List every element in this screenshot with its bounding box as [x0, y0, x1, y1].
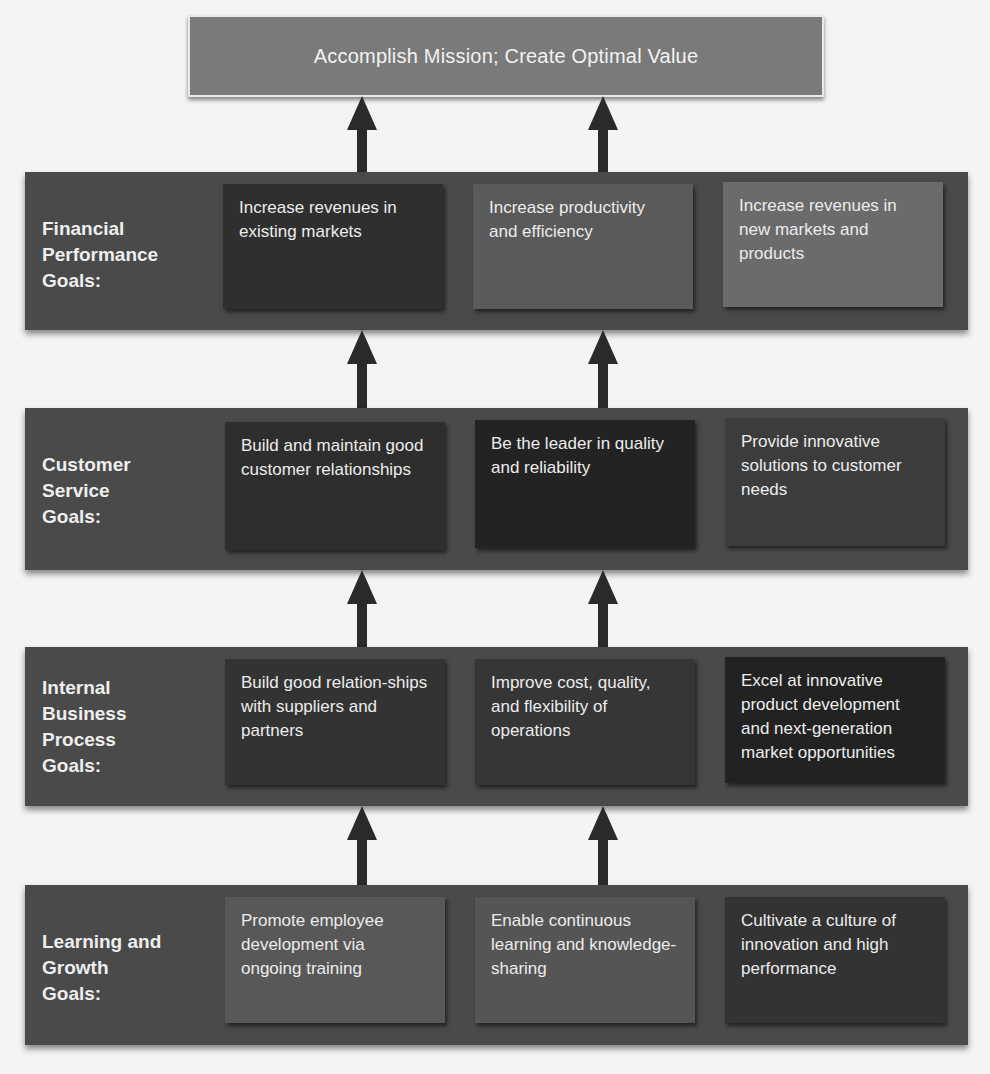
- customer-service-goals-band: Customer Service Goals: Build and mainta…: [25, 408, 968, 570]
- goal-text: Provide innovative solutions to customer…: [741, 432, 902, 499]
- mission-box: Accomplish Mission; Create Optimal Value: [188, 15, 824, 97]
- goal-box: Cultivate a culture of innovation and hi…: [725, 897, 945, 1023]
- label-line: Financial: [42, 216, 158, 242]
- goal-text: Promote employee development via ongoing…: [241, 911, 384, 978]
- arrow-up-icon: [347, 96, 377, 172]
- arrow-up-icon: [347, 570, 377, 647]
- label-line: Service: [42, 478, 131, 504]
- band-label: Learning and Growth Goals:: [42, 929, 161, 1007]
- label-line: Business: [42, 701, 126, 727]
- goal-text: Excel at innovative product development …: [741, 671, 900, 762]
- learning-growth-goals-band: Learning and Growth Goals: Promote emplo…: [25, 885, 968, 1045]
- arrow-up-icon: [588, 330, 618, 408]
- goal-box: Be the leader in quality and reliability: [475, 420, 695, 548]
- goal-box: Increase productivity and efficiency: [473, 184, 693, 309]
- goal-box: Provide innovative solutions to customer…: [725, 418, 945, 546]
- label-line: Process: [42, 727, 126, 753]
- arrow-up-icon: [588, 96, 618, 172]
- goal-text: Increase revenues in existing markets: [239, 198, 397, 241]
- goal-box: Promote employee development via ongoing…: [225, 897, 445, 1023]
- goal-box: Build and maintain good customer relatio…: [225, 422, 445, 550]
- goal-box: Excel at innovative product development …: [725, 657, 945, 783]
- arrow-up-icon: [347, 330, 377, 408]
- label-line: Goals:: [42, 268, 158, 294]
- goal-text: Be the leader in quality and reliability: [491, 434, 664, 477]
- goal-text: Increase revenues in new markets and pro…: [739, 196, 897, 263]
- goal-text: Improve cost, quality, and flexibility o…: [491, 673, 650, 740]
- band-label: Customer Service Goals:: [42, 452, 131, 530]
- label-line: Goals:: [42, 981, 161, 1007]
- label-line: Learning and: [42, 929, 161, 955]
- goal-text: Cultivate a culture of innovation and hi…: [741, 911, 896, 978]
- financial-goals-band: Financial Performance Goals: Increase re…: [25, 172, 968, 330]
- arrow-up-icon: [588, 806, 618, 885]
- goal-box: Increase revenues in existing markets: [223, 184, 443, 309]
- goal-text: Increase productivity and efficiency: [489, 198, 645, 241]
- label-line: Growth: [42, 955, 161, 981]
- arrow-up-icon: [347, 806, 377, 885]
- goal-box: Build good relation-ships with suppliers…: [225, 659, 445, 785]
- goal-text: Build and maintain good customer relatio…: [241, 436, 423, 479]
- goal-box: Improve cost, quality, and flexibility o…: [475, 659, 695, 785]
- arrow-up-icon: [588, 570, 618, 647]
- goal-text: Enable continuous learning and knowledge…: [491, 911, 676, 978]
- band-label: Internal Business Process Goals:: [42, 675, 126, 779]
- label-line: Internal: [42, 675, 126, 701]
- label-line: Goals:: [42, 753, 126, 779]
- goal-box: Enable continuous learning and knowledge…: [475, 897, 695, 1023]
- label-line: Goals:: [42, 504, 131, 530]
- mission-label: Accomplish Mission; Create Optimal Value: [314, 45, 698, 68]
- goal-box: Increase revenues in new markets and pro…: [723, 182, 943, 307]
- label-line: Performance: [42, 242, 158, 268]
- band-label: Financial Performance Goals:: [42, 216, 158, 294]
- label-line: Customer: [42, 452, 131, 478]
- internal-business-process-goals-band: Internal Business Process Goals: Build g…: [25, 647, 968, 806]
- goal-text: Build good relation-ships with suppliers…: [241, 673, 427, 740]
